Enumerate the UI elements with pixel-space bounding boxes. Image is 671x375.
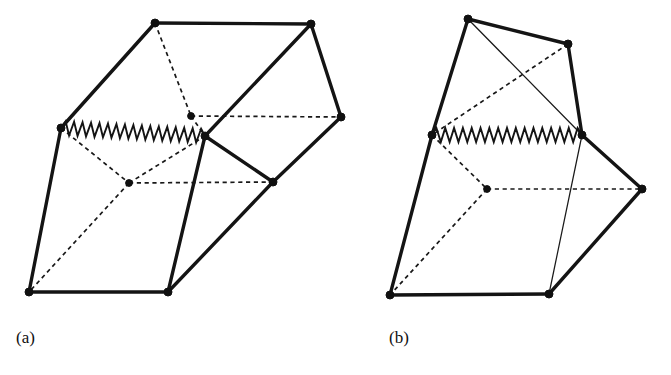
vertex-b-bottom-left — [386, 291, 394, 299]
spring-zigzag-a-spring — [61, 121, 205, 142]
edge-a-center-right-to-a-right-lower — [205, 136, 273, 182]
panel-a-label: (a) — [16, 328, 35, 347]
thin-edge-b-center-right-to-b-bottom-right — [549, 135, 582, 294]
vertex-a-bottom-left — [25, 288, 33, 296]
hidden-edge-b-top-right-to-b-left-mid — [432, 44, 568, 135]
edge-a-right-mid-to-a-right-lower — [273, 117, 341, 182]
vertex-b-bottom-right — [545, 290, 553, 298]
vertex-a-inner-upper — [188, 113, 195, 120]
edge-a-top-right-to-a-right-mid — [311, 24, 341, 117]
hidden-edge-a-inner-center-to-a-center-right — [129, 136, 205, 183]
thin-edge-b-top-to-b-center-right — [468, 19, 582, 135]
edge-b-top-to-b-left-mid — [432, 19, 468, 135]
vertex-a-bottom-mid — [164, 288, 172, 296]
edge-b-top-right-to-b-center-right — [568, 44, 582, 135]
edge-a-bottom-mid-to-a-right-lower — [168, 182, 273, 292]
vertex-a-top-left — [151, 19, 159, 27]
panel-b-group — [386, 15, 646, 299]
vertex-a-right-mid — [337, 113, 345, 121]
edge-b-bottom-left-to-b-bottom-right — [390, 294, 549, 295]
vertex-a-right-lower — [269, 178, 277, 186]
edge-a-top-left-to-a-left-mid — [61, 23, 155, 128]
hidden-edge-a-inner-upper-to-a-right-mid — [191, 116, 341, 117]
vertex-b-top-right — [564, 40, 572, 48]
vertex-a-left-mid — [57, 124, 65, 132]
edge-b-bottom-right-to-b-right — [549, 189, 642, 294]
panel-a-group — [25, 19, 345, 296]
figure-container: (a) (b) — [0, 0, 671, 375]
panel-b-label: (b) — [389, 328, 409, 347]
vertex-b-top — [464, 15, 472, 23]
vertex-a-center-right — [201, 132, 209, 140]
hidden-edge-a-inner-center-to-a-right-lower — [129, 182, 273, 183]
vertex-b-right — [638, 185, 646, 193]
vertex-a-inner-center — [126, 180, 133, 187]
vertex-b-left-mid — [428, 131, 436, 139]
edge-b-center-right-to-b-right — [582, 135, 642, 189]
edge-a-top-right-to-a-center-right — [205, 24, 311, 136]
spring-zigzag-b-spring — [432, 128, 582, 142]
hidden-edge-a-inner-center-to-a-bottom-left — [29, 183, 129, 292]
vertex-b-inner-center — [484, 186, 491, 193]
edge-b-top-to-b-top-right — [468, 19, 568, 44]
mechanism-figure: (a) (b) — [0, 0, 671, 375]
edge-a-left-mid-to-a-bottom-left — [29, 128, 61, 292]
vertex-b-center-right — [578, 131, 586, 139]
edge-a-center-right-to-a-bottom-mid — [168, 136, 205, 292]
vertex-a-top-right — [307, 20, 315, 28]
hidden-edge-a-top-left-to-a-inner-upper — [155, 23, 191, 116]
edge-a-top-left-to-a-top-right — [155, 23, 311, 24]
